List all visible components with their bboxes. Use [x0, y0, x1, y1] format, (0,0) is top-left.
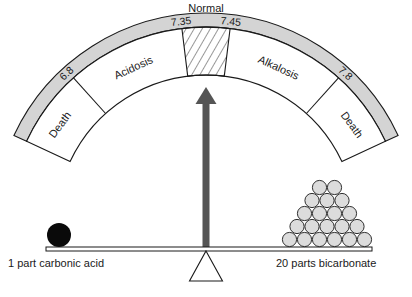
bicarbonate-ball-icon: [335, 219, 349, 233]
left-caption: 1 part carbonic acid: [8, 257, 104, 269]
tick-7-35: 7.35: [170, 14, 192, 28]
bicarbonate-ball-icon: [282, 232, 296, 246]
bicarbonate-ball-icon: [327, 180, 341, 194]
pointer-arrow-icon: [196, 87, 217, 248]
bicarbonate-ball-icon: [290, 219, 304, 233]
bicarbonate-ball-icon: [335, 193, 349, 207]
bicarbonate-ball-icon: [342, 232, 356, 246]
bicarbonate-ball-icon: [327, 232, 341, 246]
right-caption: 20 parts bicarbonate: [276, 257, 376, 269]
bicarbonate-ball-icon: [297, 232, 311, 246]
bicarbonate-ball-icon: [350, 219, 364, 233]
bicarbonate-ball-icon: [297, 206, 311, 220]
bicarbonate-ball-icon: [305, 193, 319, 207]
fulcrum-triangle-icon: [190, 251, 223, 281]
bicarbonate-ball-icon: [312, 206, 326, 220]
acid-base-balance-diagram: Normal 6.8 7.35 7.45 7.8 Death Acidosis …: [0, 0, 412, 297]
bicarbonate-ball-icon: [320, 219, 334, 233]
bicarbonate-ball-icon: [327, 206, 341, 220]
bicarbonate-ball-icon: [312, 232, 326, 246]
bicarbonate-ball-icon: [305, 219, 319, 233]
balance-beam: [46, 247, 372, 251]
carbonic-acid-ball-icon: [47, 223, 71, 247]
bicarbonate-pyramid: [282, 180, 371, 246]
bicarbonate-ball-icon: [357, 232, 371, 246]
normal-label: Normal: [188, 2, 223, 14]
tick-7-45: 7.45: [220, 14, 242, 28]
bicarbonate-ball-icon: [312, 180, 326, 194]
normal-zone-hatched: [182, 27, 230, 76]
bicarbonate-ball-icon: [342, 206, 356, 220]
bicarbonate-ball-icon: [320, 193, 334, 207]
